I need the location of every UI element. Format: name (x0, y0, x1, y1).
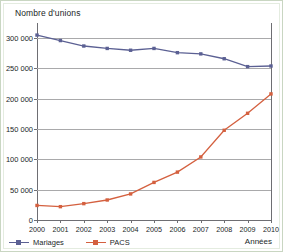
y-tick-label: 250 000 (6, 64, 33, 73)
x-tick-label: 2003 (99, 225, 115, 234)
data-point (176, 51, 179, 54)
x-tick-label: 2005 (146, 225, 162, 234)
x-tick-mark (177, 220, 178, 223)
data-point (82, 44, 85, 47)
data-point (246, 112, 249, 115)
data-point (223, 129, 226, 132)
data-point (176, 170, 179, 173)
x-tick-mark (84, 220, 85, 223)
data-point (35, 33, 38, 36)
y-tick-label: 100 000 (6, 155, 33, 164)
x-tick-label: 2007 (193, 225, 209, 234)
series-line-pacs (37, 94, 271, 207)
x-tick-mark (224, 220, 225, 223)
data-point (35, 204, 38, 207)
series-lines (37, 26, 271, 220)
data-point (106, 47, 109, 50)
data-point (152, 181, 155, 184)
x-tick-mark (131, 220, 132, 223)
y-tick-label: 50 000 (10, 185, 33, 194)
chart-figure: Nombre d'unions 050 000100 000150 000200… (0, 0, 283, 252)
legend-item: PACS (86, 238, 130, 247)
data-point (129, 49, 132, 52)
x-tick-label: 2002 (76, 225, 92, 234)
x-axis-title: Années (245, 237, 272, 246)
series-line-mariages (37, 35, 271, 67)
x-tick-label: 2009 (240, 225, 256, 234)
x-tick-label: 2001 (52, 225, 68, 234)
y-tick-label: 150 000 (6, 125, 33, 134)
y-tick-label: 300 000 (6, 34, 33, 43)
x-tick-label: 2008 (216, 225, 232, 234)
legend-label: Mariages (33, 238, 64, 247)
data-point (82, 202, 85, 205)
data-point (246, 65, 249, 68)
legend-swatch-icon (9, 239, 29, 246)
x-tick-mark (248, 220, 249, 223)
y-axis-right-line (271, 23, 272, 220)
data-point (269, 92, 272, 95)
legend-label: PACS (110, 238, 130, 247)
data-point (223, 57, 226, 60)
y-tick-label: 200 000 (6, 94, 33, 103)
data-point (106, 198, 109, 201)
data-point (199, 155, 202, 158)
x-tick-label: 2010 (263, 225, 279, 234)
legend-item: Mariages (9, 238, 64, 247)
x-tick-label: 2004 (123, 225, 139, 234)
y-tick-label: 0 (29, 216, 33, 225)
data-point (59, 39, 62, 42)
chart-legend: MariagesPACS (9, 238, 130, 247)
data-point (59, 205, 62, 208)
x-tick-mark (271, 220, 272, 223)
x-tick-mark (154, 220, 155, 223)
x-tick-label: 2006 (169, 225, 185, 234)
x-tick-mark (60, 220, 61, 223)
data-point (129, 192, 132, 195)
chart-title: Nombre d'unions (15, 8, 81, 18)
data-point (152, 47, 155, 50)
legend-swatch-icon (86, 239, 106, 246)
data-point (199, 52, 202, 55)
x-tick-mark (37, 220, 38, 223)
plot-area: 050 000100 000150 000200 000250 000300 0… (37, 26, 271, 220)
x-tick-mark (201, 220, 202, 223)
x-tick-mark (107, 220, 108, 223)
data-point (269, 64, 272, 67)
x-tick-label: 2000 (29, 225, 45, 234)
